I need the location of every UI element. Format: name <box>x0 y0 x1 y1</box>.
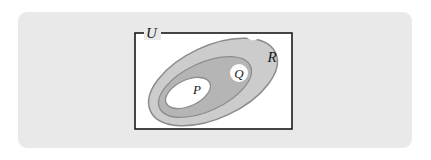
euler-diagram-canvas: U R Q P <box>0 0 431 160</box>
set-r-label: R <box>266 49 276 65</box>
set-q-label: Q <box>234 66 244 81</box>
euler-diagram-figure: U R Q P <box>0 0 431 160</box>
set-p-label: P <box>192 82 201 97</box>
universe-label: U <box>146 25 158 41</box>
